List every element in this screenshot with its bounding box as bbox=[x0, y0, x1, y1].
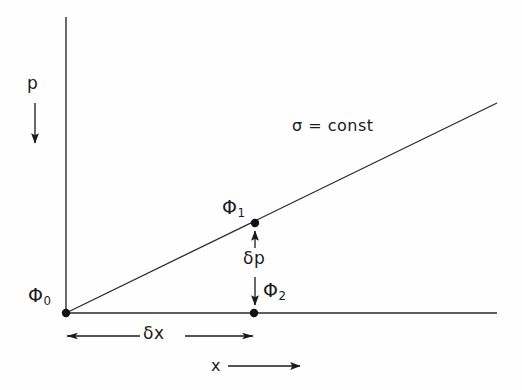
delta-x-label: δx bbox=[143, 325, 164, 342]
point-marker-phi0 bbox=[62, 309, 70, 317]
point-label-phi1-symbol: Φ bbox=[222, 196, 237, 218]
point-label-phi1-subscript: 1 bbox=[237, 206, 245, 220]
point-marker-phi1 bbox=[251, 219, 259, 227]
axis-label-x: x bbox=[211, 358, 220, 374]
axis-label-p: p bbox=[27, 75, 38, 92]
point-label-phi2-symbol: Φ bbox=[263, 279, 278, 301]
sigma-const-label: σ = const bbox=[292, 118, 374, 134]
point-label-phi1: Φ1 bbox=[222, 198, 244, 217]
point-label-phi2: Φ2 bbox=[263, 281, 285, 300]
point-marker-phi2 bbox=[250, 309, 258, 317]
physics-diagram: p σ = const Φ1 δp Φ2 Φ0 δx x bbox=[0, 0, 522, 390]
point-label-phi0-symbol: Φ bbox=[28, 284, 43, 306]
point-label-phi0: Φ0 bbox=[28, 286, 50, 305]
delta-p-label: δp bbox=[243, 250, 265, 267]
point-label-phi0-subscript: 0 bbox=[43, 294, 51, 308]
point-label-phi2-subscript: 2 bbox=[278, 289, 286, 303]
diagram-canvas bbox=[0, 0, 522, 390]
